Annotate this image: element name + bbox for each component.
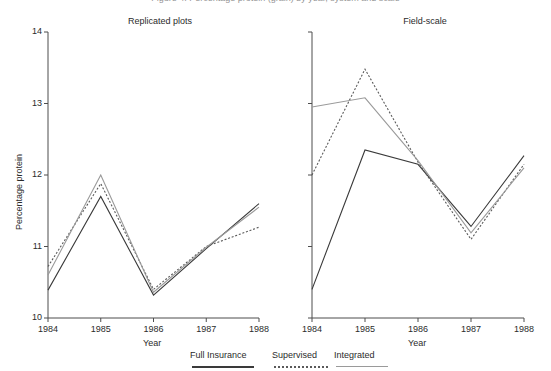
y-tick-label-14: 14 (22, 26, 42, 36)
x-tick-label-1988: 1988 (511, 324, 537, 334)
x-tick-label-1988: 1988 (246, 324, 272, 334)
chart-canvas (0, 0, 551, 371)
y-tick-label-11: 11 (22, 241, 42, 251)
legend-swatch-full-insurance (192, 366, 254, 368)
series-line-integrated-right (312, 98, 524, 233)
legend-swatch-integrated (336, 366, 388, 367)
x-tick-label-1986: 1986 (405, 324, 431, 334)
series-line-full-insurance-left (48, 196, 259, 295)
y-tick-label-10: 10 (22, 312, 42, 322)
legend-label-full-insurance: Full Insurance (190, 350, 247, 360)
x-tick-label-1987: 1987 (193, 324, 219, 334)
legend-label-integrated: Integrated (334, 350, 375, 360)
x-tick-label-1987: 1987 (458, 324, 484, 334)
series-line-full-insurance-right (312, 150, 524, 289)
x-tick-label-1985: 1985 (352, 324, 378, 334)
series-line-supervised-left (48, 184, 259, 290)
y-tick-label-12: 12 (22, 169, 42, 179)
legend-label-supervised: Supervised (272, 350, 317, 360)
legend-swatch-supervised (274, 366, 328, 368)
x-tick-label-1984: 1984 (35, 324, 61, 334)
x-tick-label-1985: 1985 (88, 324, 114, 334)
figure-root: Figure 4. Percentage protein (grain) by … (0, 0, 551, 371)
series-line-supervised-right (312, 69, 524, 239)
x-tick-label-1984: 1984 (299, 324, 325, 334)
x-tick-label-1986: 1986 (141, 324, 167, 334)
y-tick-label-13: 13 (22, 98, 42, 108)
